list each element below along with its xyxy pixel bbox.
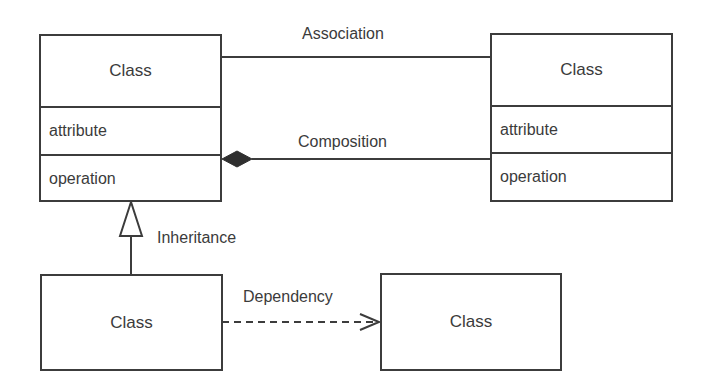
inheritance-triangle-icon <box>120 202 142 236</box>
class-name: Class <box>41 36 220 106</box>
composition-label: Composition <box>298 133 387 151</box>
class-name: Class <box>492 35 671 105</box>
composition-diamond-icon <box>222 151 252 167</box>
class-box-bottom-left[interactable]: Class <box>40 274 223 371</box>
association-label: Association <box>302 25 384 43</box>
class-operation: operation <box>492 152 671 200</box>
class-box-bottom-right[interactable]: Class <box>380 273 562 371</box>
class-box-top-right[interactable]: Class attribute operation <box>490 33 673 202</box>
class-attribute: attribute <box>41 106 220 154</box>
dependency-label: Dependency <box>243 288 333 306</box>
class-attribute: attribute <box>492 105 671 152</box>
inheritance-label: Inheritance <box>157 229 236 247</box>
class-box-top-left[interactable]: Class attribute operation <box>39 34 222 202</box>
class-operation: operation <box>41 154 220 202</box>
class-name: Class <box>42 276 221 369</box>
class-name: Class <box>382 275 560 369</box>
